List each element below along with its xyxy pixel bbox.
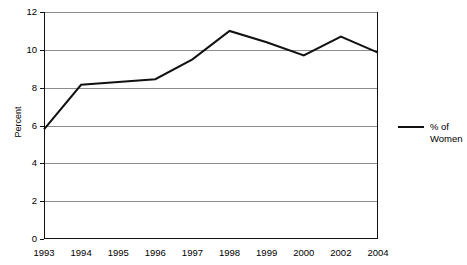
y-tick-label: 8 (32, 83, 37, 93)
x-tick-label: 2002 (330, 247, 351, 258)
x-tick-label: 1993 (33, 247, 54, 258)
y-tick-label: 0 (32, 234, 37, 244)
legend: % of Women (398, 121, 467, 145)
x-tick-label: 2000 (293, 247, 314, 258)
y-tick-label: 12 (26, 7, 37, 17)
plot-area: 024681012 199319941995199619971998199920… (44, 12, 378, 239)
x-tick-label: 1994 (71, 247, 92, 258)
y-tick-mark (40, 239, 44, 240)
legend-entry-label: % of Women (430, 121, 467, 145)
x-tick-label: 1996 (145, 247, 166, 258)
x-tick-label: 1995 (108, 247, 129, 258)
y-tick-label: 10 (26, 45, 37, 55)
y-tick-label: 4 (32, 158, 37, 168)
x-tick-label: 1999 (256, 247, 277, 258)
legend-line-swatch-icon (398, 126, 424, 128)
x-tick-label: 1997 (182, 247, 203, 258)
x-tick-label: 2004 (367, 247, 388, 258)
y-tick-label: 6 (32, 121, 37, 131)
y-tick-label: 2 (32, 196, 37, 206)
series-line-women (44, 12, 378, 239)
x-tick-label: 1998 (219, 247, 240, 258)
y-axis-title: Percent (13, 77, 23, 167)
